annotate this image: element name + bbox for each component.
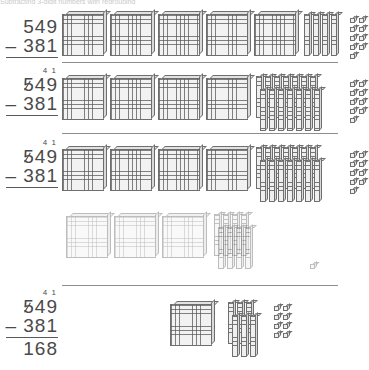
calculation-step-2: 4 1 549 – 381 [0, 66, 58, 116]
unit-cube [283, 315, 288, 320]
unit-cube [274, 324, 279, 329]
hundred-flat [206, 14, 248, 56]
minuend-step-4: 549 [0, 297, 58, 316]
ten-rod [227, 227, 233, 269]
step-separator-1 [62, 62, 338, 63]
unit-cube [359, 162, 364, 167]
ten-rod [304, 14, 310, 56]
calc-rule-step-2 [6, 115, 58, 116]
regrouped-digit-step-2: 5 [23, 75, 35, 94]
calc-rule-step-1 [6, 57, 58, 58]
unit-cube [350, 54, 355, 59]
unit-cube [359, 36, 364, 41]
subtrahend-step-2: – 381 [0, 94, 58, 114]
ten-rod [260, 160, 266, 202]
hundred-flat [170, 304, 212, 346]
unit-cube [359, 180, 364, 185]
unit-cube [350, 36, 355, 41]
unit-cube [350, 153, 355, 158]
hundred-flat [62, 149, 104, 191]
unit-cube [359, 91, 364, 96]
unit-cube [274, 315, 279, 320]
ten-rod [218, 227, 224, 269]
cut-off-header: Subtracting 3-digit numbers with regroup… [0, 0, 338, 4]
unit-cube [359, 18, 364, 23]
unit-cube [350, 189, 355, 194]
ten-rod [250, 315, 256, 357]
hundred-flat [206, 149, 248, 191]
unit-cube [350, 180, 355, 185]
ten-rod [314, 89, 320, 131]
unit-cube [350, 82, 355, 87]
ten-rod [314, 160, 320, 202]
unit-cube [350, 18, 355, 23]
ten-rod [322, 14, 328, 56]
ten-rod [232, 315, 238, 357]
hundred-flat [254, 14, 296, 56]
ten-rod [278, 160, 284, 202]
unit-cube [310, 264, 315, 269]
unit-cube [350, 100, 355, 105]
hundred-flat [158, 149, 200, 191]
unit-cube [350, 171, 355, 176]
unit-cube [274, 333, 279, 338]
ten-rod [313, 14, 319, 56]
hundred-flat [110, 149, 152, 191]
ten-rod [269, 89, 275, 131]
hundred-flat [110, 14, 152, 56]
answer-step-4: 168 [0, 338, 58, 359]
ten-rod [245, 227, 251, 269]
unit-cube [350, 162, 355, 167]
ten-rod [296, 89, 302, 131]
ten-rod [236, 227, 242, 269]
unit-cube [350, 45, 355, 50]
ten-rod [331, 14, 337, 56]
hundred-flat [158, 78, 200, 120]
minuend-step-2: 549 [0, 75, 58, 94]
subtrahend-step-3: – 381 [0, 166, 58, 186]
unit-cube [350, 109, 355, 114]
ten-rod [287, 160, 293, 202]
regrouped-digit-step-4: 5 [23, 297, 35, 316]
unit-cube [350, 118, 355, 123]
subtrahend-step-4: – 381 [0, 316, 58, 336]
unit-cube [350, 91, 355, 96]
unit-cube [359, 27, 364, 32]
unit-cube [359, 100, 364, 105]
unit-cube [359, 82, 364, 87]
unit-cube [359, 153, 364, 158]
hundred-flat [62, 78, 104, 120]
calc-rule-step-3 [6, 187, 58, 188]
ten-rod [296, 160, 302, 202]
unit-cube [359, 45, 364, 50]
calculation-step-1: 549 – 381 [0, 8, 58, 58]
hundred-flat [62, 14, 104, 56]
step-separator-3 [62, 285, 338, 286]
ten-rod [305, 89, 311, 131]
regrouped-digit-step-3: 5 [23, 147, 35, 166]
unit-cube [359, 109, 364, 114]
calculation-step-4: 4 1 549 – 381 168 [0, 288, 58, 359]
unit-cube [359, 171, 364, 176]
step-separator-2 [62, 133, 338, 134]
unit-cube [350, 27, 355, 32]
calculation-step-3: 4 1 549 – 381 [0, 138, 58, 188]
hundred-flat [114, 216, 156, 258]
hundred-flat [66, 216, 108, 258]
ten-rod [269, 160, 275, 202]
unit-cube [283, 333, 288, 338]
unit-cube [283, 324, 288, 329]
unit-cube [274, 306, 279, 311]
hundred-flat [110, 78, 152, 120]
minuend-step-1: 549 [0, 17, 58, 36]
hundred-flat [206, 78, 248, 120]
ten-rod [278, 89, 284, 131]
ten-rod [305, 160, 311, 202]
hundred-flat [158, 14, 200, 56]
subtrahend-step-1: – 381 [0, 36, 58, 56]
minuend-step-3: 549 [0, 147, 58, 166]
ten-rod [260, 89, 266, 131]
unit-cube [283, 306, 288, 311]
ten-rod [241, 315, 247, 357]
